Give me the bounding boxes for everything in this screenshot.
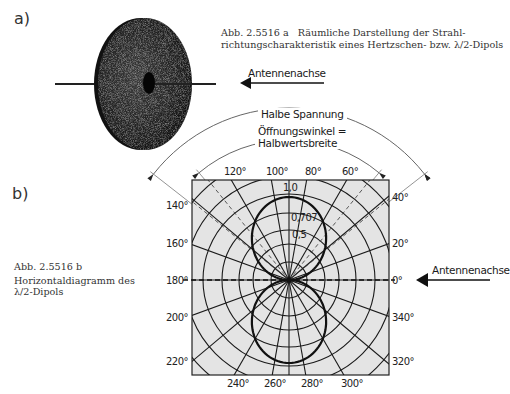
antenna-axis-label-a: Antennenachse [248,67,326,79]
angle-label-220: 220° [166,356,188,367]
angle-label-0: 0° [392,275,402,286]
caption-a-line1: Abb. 2.5516 a Räumliche Darstellung der … [221,27,501,39]
angle-label-240: 240° [227,378,249,389]
angle-label-280: 280° [301,378,323,389]
angle-label-320: 320° [392,356,414,367]
angle-label-20: 20° [392,238,408,249]
angle-label-260: 260° [264,378,286,389]
half-voltage-label: Halbe Spannung [258,108,347,120]
radius-label-1-0: 1,0 [283,182,297,193]
angle-label-120: 120° [224,166,246,177]
angle-label-40: 40° [392,192,408,203]
caption-b-line3: λ/2-Dipols [14,286,135,298]
beamwidth-label-line2: Halbwertsbreite [258,137,346,149]
angle-label-160: 160° [166,238,188,249]
caption-b: Abb. 2.5516 b Horizontaldiagramm des λ/2… [14,261,135,298]
angle-label-300: 300° [341,378,363,389]
angle-label-200: 200° [166,312,188,323]
radius-label-0-707: 0,707 [291,212,317,223]
angle-label-60: 60° [342,166,358,177]
radius-label-0-5: 0,5 [292,229,306,240]
antenna-axis-label-b: Antennenachse [432,264,510,276]
caption-a-line2: richtungscharakteristik eines Hertzschen… [221,39,501,51]
angle-label-80: 80° [305,166,321,177]
angle-label-340: 340° [392,312,414,323]
angle-label-140: 140° [166,200,188,211]
disk-hole [143,72,155,94]
beamwidth-label-line1: Öffnungswinkel = [258,125,346,137]
caption-b-line1: Abb. 2.5516 b [14,261,135,273]
panel-b-label: b) [12,184,28,203]
dipole-disk-3d [55,18,216,150]
angle-label-100: 100° [266,166,288,177]
beamwidth-label: Öffnungswinkel = Halbwertsbreite [255,125,349,149]
angle-label-180: 180° [166,275,188,286]
caption-a: Abb. 2.5516 a Räumliche Darstellung der … [221,27,501,50]
caption-b-line2: Horizontaldiagramm des [14,275,135,287]
